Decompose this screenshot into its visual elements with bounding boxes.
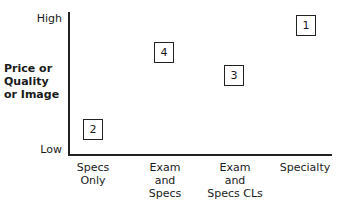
x-label-specialty: Specialty (270, 161, 340, 174)
y-title-line-1: Price or (4, 62, 59, 75)
x-label-specs-only: Specs Only (58, 161, 128, 187)
x-label-exam-and-specs: Exam and Specs (130, 161, 200, 200)
x-label-line: and (200, 174, 270, 187)
position-box-4: 4 (154, 42, 174, 63)
x-label-line: Only (58, 174, 128, 187)
x-label-line: Specs (58, 161, 128, 174)
x-label-exam-and-specs-cls: Exam and Specs CLs (200, 161, 270, 200)
y-title-line-3: or Image (4, 88, 59, 101)
x-label-line: Exam (130, 161, 200, 174)
y-title-line-2: Quality (4, 75, 59, 88)
x-label-line: Specs (130, 187, 200, 200)
x-axis-line (68, 154, 332, 156)
position-box-3: 3 (224, 65, 244, 86)
x-label-line: and (130, 174, 200, 187)
y-axis-line (68, 12, 70, 156)
x-label-line: Specs CLs (200, 187, 270, 200)
x-label-line: Specialty (270, 161, 340, 174)
y-tick-low: Low (30, 143, 62, 156)
y-tick-high: High (30, 12, 62, 25)
y-axis-title: Price or Quality or Image (4, 62, 59, 101)
x-label-line: Exam (200, 161, 270, 174)
position-box-1: 1 (296, 15, 316, 36)
position-box-2: 2 (83, 119, 103, 140)
